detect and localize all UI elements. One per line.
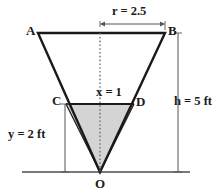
geometry-figure: A B C D O r = 2.5 x = 1 h = 5 ft y = 2 f… bbox=[0, 0, 224, 196]
vertex-label-a: A bbox=[26, 24, 35, 37]
vertex-label-d: D bbox=[136, 95, 145, 108]
radius-dimension-arrow bbox=[100, 21, 165, 30]
vertex-label-c: C bbox=[52, 94, 61, 107]
inner-height-dimension-line bbox=[61, 104, 69, 172]
height-dimension-label: h = 5 ft bbox=[174, 95, 212, 108]
inner-height-dimension-label: y = 2 ft bbox=[8, 128, 45, 141]
vertex-label-b: B bbox=[168, 24, 177, 37]
radius-dimension-label: r = 2.5 bbox=[112, 5, 146, 18]
vertex-label-o: O bbox=[95, 177, 105, 190]
inner-radius-dimension-label: x = 1 bbox=[96, 86, 122, 99]
